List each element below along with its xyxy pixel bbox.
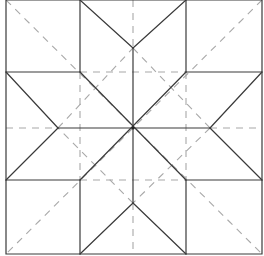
center-point <box>131 126 134 129</box>
solid-line <box>210 72 262 128</box>
solid-line <box>133 0 186 48</box>
star-block-diagram <box>0 0 264 256</box>
solid-line <box>6 128 58 180</box>
solid-line <box>133 203 186 254</box>
dashed-line <box>133 48 210 128</box>
solid-line <box>6 72 58 128</box>
solid-line <box>210 128 262 180</box>
solid-line <box>80 203 133 254</box>
solid-line <box>80 0 133 48</box>
